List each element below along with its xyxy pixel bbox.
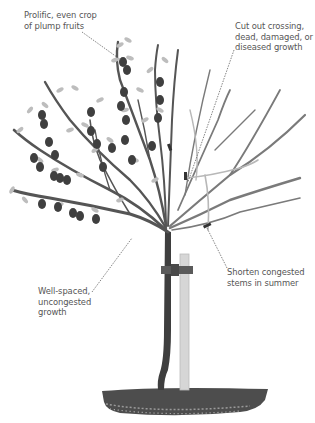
leader-lines <box>82 32 234 292</box>
tree-illustration <box>0 0 315 423</box>
trunk <box>158 230 171 390</box>
leaves <box>8 36 169 213</box>
annotation-cut-out-growth: Cut out crossing, dead, damaged, or dise… <box>235 21 313 53</box>
annotation-shorten-stems: Shorten congested stems in summer <box>227 267 305 288</box>
pruning-diagram: Prolific, even crop of plump fruits Cut … <box>0 0 315 423</box>
soil-mound <box>102 388 268 415</box>
annotation-well-spaced: Well-spaced, uncongested growth <box>38 286 91 318</box>
support-stake <box>180 254 189 390</box>
annotation-fruit-crop: Prolific, even crop of plump fruits <box>24 10 97 31</box>
fruiting-branches <box>12 42 178 232</box>
pruned-branches <box>170 70 305 230</box>
